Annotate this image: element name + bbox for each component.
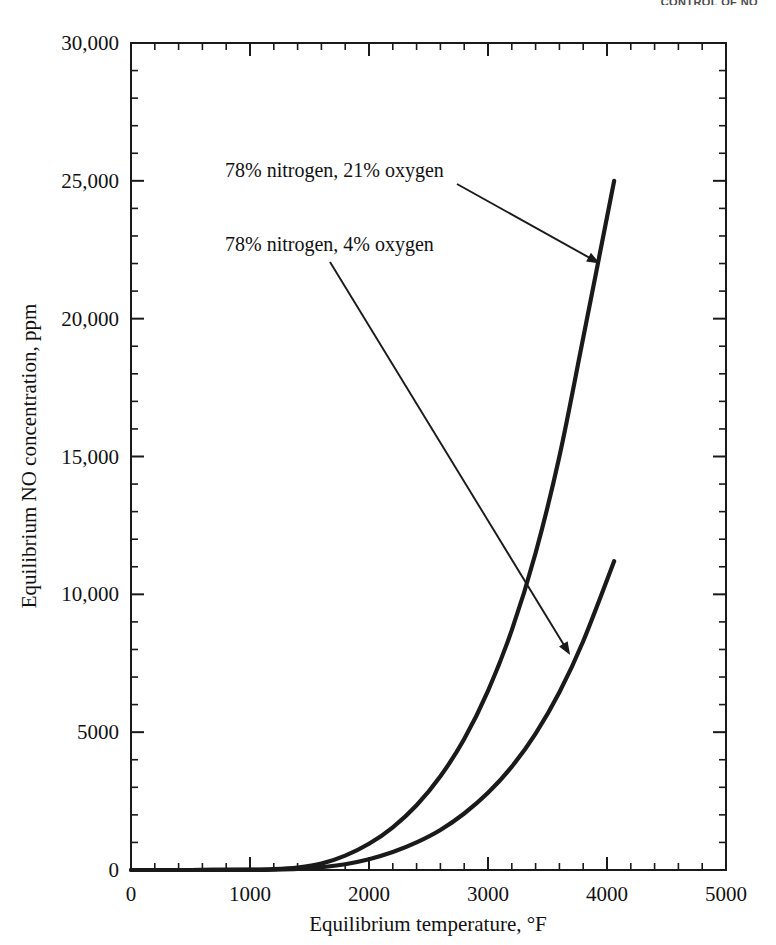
annotation-leader-1 [330,262,565,646]
y-tick-label: 10,000 [61,582,119,606]
annotation-leader-0 [457,184,591,258]
y-axis-tick-labels: 0500010,00015,00020,00025,00030,000 [61,31,119,882]
data-series-group [131,181,614,870]
y-tick-label: 20,000 [61,307,119,331]
y-tick-label: 15,000 [61,445,119,469]
x-axis-title: Equilibrium temperature, °F [309,912,547,936]
figure-page: CONTROL OF NO 010002000300040005000 0500… [0,0,776,945]
annotation-label-0: 78% nitrogen, 21% oxygen [225,159,444,182]
annotation-group: 78% nitrogen, 21% oxygen78% nitrogen, 4%… [225,159,600,655]
x-tick-label: 3000 [467,882,509,906]
y-tick-label: 30,000 [61,31,119,55]
annotation-label-1: 78% nitrogen, 4% oxygen [225,233,434,256]
x-tick-label: 0 [126,882,137,906]
x-tick-label: 1000 [229,882,271,906]
annotation-arrowhead-1 [559,641,570,655]
x-axis-tick-labels: 010002000300040005000 [126,882,747,906]
series-line-0 [131,181,614,870]
x-tick-label: 5000 [705,882,747,906]
y-tick-label: 25,000 [61,169,119,193]
y-axis-title: Equilibrium NO concentration, ppm [17,304,41,608]
chart-figure: 010002000300040005000 0500010,00015,0002… [0,0,776,945]
x-tick-label: 4000 [586,882,628,906]
y-axis-ticks [131,71,726,843]
y-tick-label: 5000 [77,720,119,744]
y-tick-label: 0 [109,858,120,882]
x-tick-label: 2000 [348,882,390,906]
chart-canvas: 010002000300040005000 0500010,00015,0002… [0,0,776,945]
